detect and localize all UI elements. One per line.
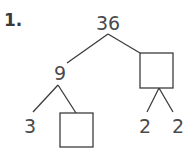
edge-36-9 [67,34,108,63]
answer-box-right[interactable] [140,53,173,88]
edge-9-3 [33,85,58,112]
node-left-left: 3 [24,115,36,137]
node-right-right: 2 [172,115,183,137]
edge-box-2-left [147,88,159,112]
factor-tree: 36 9 3 2 2 [0,0,183,153]
edge-36-box [108,34,140,53]
edge-9-box [58,85,76,113]
node-left: 9 [54,62,66,84]
answer-box-bottom[interactable] [60,113,93,147]
edge-box-2-right [159,88,173,112]
node-right-left: 2 [139,115,151,137]
node-root: 36 [96,12,120,34]
